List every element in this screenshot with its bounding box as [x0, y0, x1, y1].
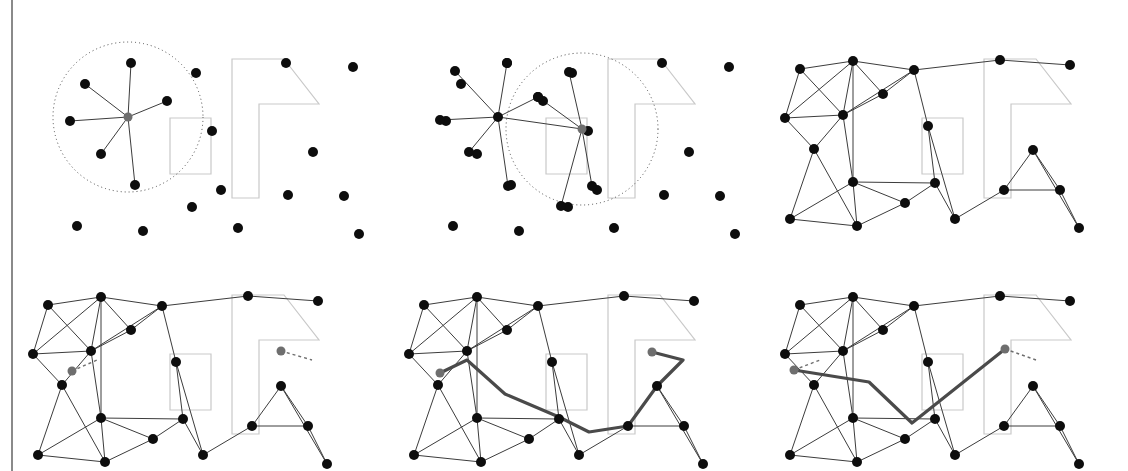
roadmap-node — [724, 62, 734, 72]
roadmap-edge — [409, 305, 424, 354]
roadmap-node — [809, 380, 819, 390]
roadmap-edge — [414, 418, 477, 455]
roadmap-edge — [684, 426, 703, 464]
roadmap-edge — [843, 94, 883, 115]
roadmap-edge — [498, 117, 582, 129]
start-query-node — [436, 369, 445, 378]
roadmap-node — [1055, 421, 1065, 431]
roadmap-node — [587, 181, 597, 191]
roadmap-edge — [853, 182, 935, 183]
roadmap-edge — [498, 63, 507, 117]
roadmap-edge — [785, 115, 843, 118]
roadmap-node — [524, 434, 534, 444]
roadmap-node — [780, 113, 790, 123]
roadmap-node — [348, 62, 358, 72]
roadmap-node — [476, 457, 486, 467]
roadmap-edge — [800, 69, 843, 115]
roadmap-edge — [853, 418, 935, 419]
roadmap-edge — [935, 183, 955, 219]
roadmap-node — [435, 115, 445, 125]
roadmap-edge — [467, 330, 507, 351]
roadmap-node — [684, 147, 694, 157]
roadmap-node — [100, 457, 110, 467]
roadmap-node — [308, 147, 318, 157]
roadmap-node — [43, 300, 53, 310]
roadmap-node — [848, 177, 858, 187]
start-query-node — [790, 366, 799, 375]
panel-1-obstacles — [170, 59, 319, 198]
roadmap-node — [657, 58, 667, 68]
l-shaped-obstacle — [232, 295, 319, 434]
roadmap-edge — [477, 418, 529, 439]
roadmap-node — [65, 116, 75, 126]
roadmap-node — [715, 191, 725, 201]
roadmap-node — [652, 381, 662, 391]
roadmap-node — [462, 346, 472, 356]
roadmap-edge — [101, 297, 131, 330]
roadmap-edge — [853, 61, 914, 70]
roadmap-node — [533, 301, 543, 311]
roadmap-edge — [928, 126, 955, 219]
panel-3-roadmap — [780, 55, 1084, 233]
roadmap-edge — [308, 426, 327, 464]
roadmap-edge — [785, 118, 814, 149]
goal-connection-dashed — [281, 351, 312, 360]
roadmap-edge — [857, 203, 905, 226]
roadmap-node — [930, 414, 940, 424]
panel-4-nodes — [28, 291, 332, 469]
roadmap-edge — [814, 351, 843, 385]
roadmap-node — [86, 346, 96, 356]
panel-6-edges — [785, 296, 1079, 464]
roadmap-node — [809, 144, 819, 154]
roadmap-edge — [101, 418, 153, 439]
prm-figure — [0, 0, 1128, 471]
roadmap-edge — [33, 305, 48, 354]
roadmap-node — [178, 414, 188, 424]
roadmap-node — [233, 223, 243, 233]
goal-connection-dashed — [1005, 349, 1036, 360]
roadmap-edge — [914, 70, 928, 126]
roadmap-edge — [414, 455, 481, 462]
roadmap-edge — [248, 296, 318, 301]
roadmap-node — [698, 459, 708, 469]
panel-5-edges — [409, 296, 703, 464]
roadmap-node — [126, 325, 136, 335]
roadmap-node — [339, 191, 349, 201]
roadmap-edge — [883, 306, 914, 330]
l-shaped-obstacle — [232, 59, 319, 198]
roadmap-node — [848, 56, 858, 66]
roadmap-edge — [853, 297, 914, 306]
roadmap-node — [472, 292, 482, 302]
roadmap-node — [848, 292, 858, 302]
roadmap-node — [533, 92, 543, 102]
roadmap-node — [96, 413, 106, 423]
roadmap-edge — [38, 455, 105, 462]
roadmap-node — [554, 414, 564, 424]
roadmap-edge — [624, 296, 694, 301]
roadmap-node — [303, 421, 313, 431]
roadmap-edge — [905, 183, 935, 203]
roadmap-edge — [1004, 150, 1033, 190]
roadmap-node — [502, 325, 512, 335]
panel-3-edges — [785, 60, 1079, 228]
roadmap-node — [609, 223, 619, 233]
roadmap-edge — [790, 149, 814, 219]
roadmap-node — [795, 300, 805, 310]
roadmap-node — [623, 421, 633, 431]
start-query-node — [68, 367, 77, 376]
roadmap-edge — [955, 190, 1004, 219]
roadmap-node — [472, 413, 482, 423]
roadmap-edge — [481, 439, 529, 462]
roadmap-node — [923, 121, 933, 131]
roadmap-node — [148, 434, 158, 444]
roadmap-edge — [498, 97, 538, 117]
roadmap-node — [878, 325, 888, 335]
l-shaped-obstacle — [984, 59, 1071, 198]
roadmap-edge — [790, 418, 853, 455]
roadmap-edge — [128, 63, 131, 117]
roadmap-node — [1074, 223, 1084, 233]
roadmap-node — [247, 421, 257, 431]
roadmap-node — [130, 180, 140, 190]
roadmap-node — [999, 185, 1009, 195]
roadmap-edge — [101, 418, 183, 419]
